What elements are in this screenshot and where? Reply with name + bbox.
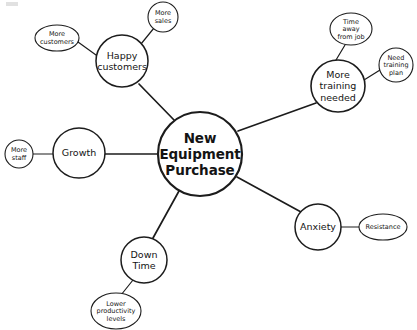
edge-center-more-training-needed	[238, 103, 316, 131]
edge-down-time-lower-productivity	[121, 280, 133, 295]
node-label-down-time: DownTime	[131, 249, 158, 271]
edge-more-training-needed-time-away	[336, 45, 345, 60]
node-growth[interactable]: Growth	[53, 128, 105, 178]
node-happy-customers[interactable]: Happycustomers	[96, 35, 148, 87]
edge-center-happy-customers	[139, 84, 175, 121]
node-resistance[interactable]: Resistance	[359, 214, 407, 240]
nodes-layer: NewEquipmentPurchaseHappycustomersMorecu…	[5, 2, 413, 329]
edge-center-down-time	[153, 191, 179, 238]
node-more-staff[interactable]: Morestaff	[5, 140, 33, 168]
node-more-sales[interactable]: Moresales	[148, 2, 178, 32]
node-label-growth: Growth	[62, 147, 96, 158]
edge-more-training-needed-need-plan	[364, 70, 380, 80]
node-label-more-staff: Morestaff	[11, 146, 27, 162]
node-label-anxiety: Anxiety	[300, 221, 336, 232]
mind-map-diagram: NewEquipmentPurchaseHappycustomersMorecu…	[0, 0, 417, 330]
node-need-training-plan[interactable]: Needtrainingplan	[379, 48, 413, 82]
node-down-time[interactable]: DownTime	[121, 237, 167, 283]
node-more-customers[interactable]: Morecustomers	[35, 25, 79, 51]
edge-happy-customers-more-sales	[141, 28, 154, 44]
node-time-away-from-job[interactable]: Timeawayfrom job	[330, 13, 372, 45]
node-lower-productivity-levels[interactable]: Lowerproductivitylevels	[91, 293, 141, 329]
edge-happy-customers-more-customers	[78, 42, 96, 55]
node-new-equipment-purchase[interactable]: NewEquipmentPurchase	[158, 112, 242, 196]
node-anxiety[interactable]: Anxiety	[295, 204, 341, 250]
mind-map-canvas: NewEquipmentPurchaseHappycustomersMorecu…	[0, 0, 417, 330]
node-label-resistance: Resistance	[365, 223, 400, 231]
node-more-training-needed[interactable]: Moretrainingneeded	[311, 60, 365, 112]
node-label-more-sales: Moresales	[155, 9, 172, 25]
edge-center-anxiety	[237, 177, 301, 212]
